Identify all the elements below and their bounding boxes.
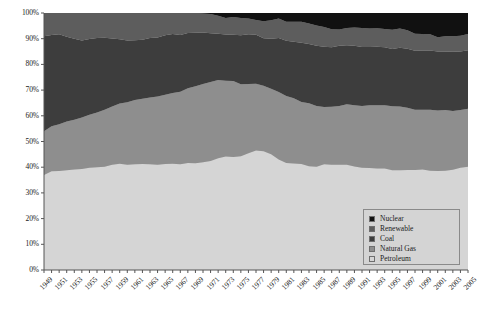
y-axis-tick-label: 90% — [26, 34, 39, 43]
legend-label: Petroleum — [380, 254, 411, 264]
legend-label: Nuclear — [380, 214, 404, 224]
y-axis-tick-label: 80% — [26, 59, 39, 68]
y-axis-tick-label: 0% — [29, 265, 39, 274]
chart-legend: NuclearRenewableCoalNatural GasPetroleum — [363, 209, 460, 265]
legend-swatch-icon — [369, 226, 375, 232]
y-axis-tick-label: 40% — [26, 162, 39, 171]
y-axis-tick-label: 50% — [26, 137, 39, 146]
chart-canvas — [0, 0, 485, 323]
legend-label: Natural Gas — [380, 244, 416, 254]
stacked-area-chart: 0%10%20%30%40%50%60%70%80%90%100% 194919… — [0, 0, 485, 323]
y-axis-tick-label: 70% — [26, 85, 39, 94]
legend-item-nuclear: Nuclear — [369, 214, 453, 224]
legend-item-natural-gas: Natural Gas — [369, 244, 453, 254]
y-axis-tick-label: 30% — [26, 188, 39, 197]
legend-swatch-icon — [369, 256, 375, 262]
y-axis-tick-label: 60% — [26, 111, 39, 120]
y-axis-tick-label: 100% — [22, 8, 39, 17]
legend-label: Coal — [380, 234, 394, 244]
legend-item-renewable: Renewable — [369, 224, 453, 234]
y-axis-tick-label: 20% — [26, 214, 39, 223]
legend-item-coal: Coal — [369, 234, 453, 244]
y-axis-tick-label: 10% — [26, 239, 39, 248]
legend-swatch-icon — [369, 246, 375, 252]
legend-item-petroleum: Petroleum — [369, 254, 453, 264]
legend-swatch-icon — [369, 216, 375, 222]
legend-label: Renewable — [380, 224, 413, 234]
legend-swatch-icon — [369, 236, 375, 242]
